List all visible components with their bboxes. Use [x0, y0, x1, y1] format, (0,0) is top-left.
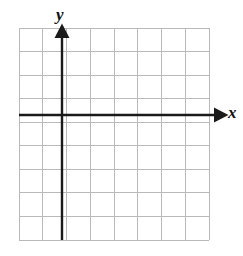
coordinate-plane-figure: y x [0, 0, 243, 256]
x-axis-label: x [228, 104, 237, 121]
coordinate-grid-canvas [0, 0, 243, 256]
y-axis-label: y [56, 6, 64, 23]
